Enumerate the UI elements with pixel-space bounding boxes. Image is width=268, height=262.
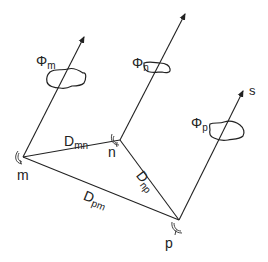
cloud-label-m: Φm [36,54,56,71]
antenna-dish-icon-p [172,222,182,235]
phi-symbol: Φ [132,55,143,71]
direction-label-s: s [249,84,256,97]
node-label-n: n [108,145,116,159]
edge-label-mn: Dmn [64,134,88,151]
edge-label-sub: mn [74,140,88,151]
node-label-p: p [165,236,173,250]
phi-symbol: Φ [36,53,47,69]
antenna-dish-icon-m [16,151,22,164]
cloud-label-sub: n [143,62,149,73]
cloud-label-n: Φn [132,56,149,73]
arrow-icon [179,91,243,220]
phi-symbol: Φ [191,115,202,131]
node-label-m: m [17,168,29,182]
cloud-label-sub: p [202,122,208,133]
diagram-svg [0,0,268,262]
arrow-icon [120,14,185,140]
cloud-label-p: Φp [191,116,208,133]
cloud-label-sub: m [47,60,55,71]
diagram-canvas: m n p Φm Φn Φp s Dmn Dnp Dpm [0,0,268,262]
edge-label-main: D [64,133,74,149]
